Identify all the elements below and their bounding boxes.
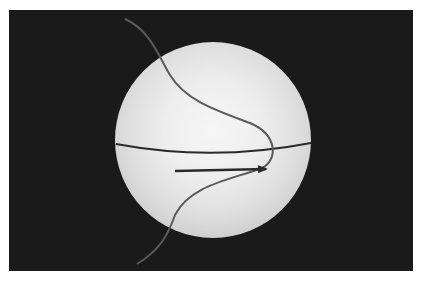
sphere [115, 42, 311, 238]
sphere-diagram [0, 0, 424, 287]
